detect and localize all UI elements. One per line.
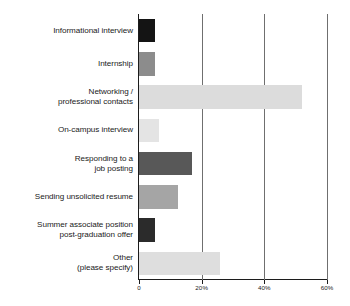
category-label-line: Summer associate position [0, 220, 133, 230]
bar[interactable] [139, 119, 159, 143]
category-label: Networking /professional contacts [0, 81, 133, 114]
category-label-line: post-graduation offer [0, 230, 133, 240]
category-label-line: job posting [0, 164, 133, 174]
bar-row [139, 119, 327, 143]
category-label: Other(please specify) [0, 247, 133, 280]
bar[interactable] [139, 185, 178, 209]
bar-row [139, 85, 327, 109]
category-label-line: On-campus interview [0, 125, 133, 135]
bar[interactable] [139, 218, 155, 242]
bar-row [139, 19, 327, 43]
x-axis-line [138, 279, 328, 280]
bar-row [139, 185, 327, 209]
bar[interactable] [139, 52, 155, 76]
bar[interactable] [139, 19, 155, 43]
category-label-line: Sending unsolicited resume [0, 192, 133, 202]
category-label: Responding to ajob posting [0, 147, 133, 180]
x-axis-tick-label: 0 [137, 284, 141, 291]
category-label-line: Responding to a [0, 154, 133, 164]
bar[interactable] [139, 152, 192, 176]
x-axis-tick-label: 40% [258, 284, 271, 291]
category-label-line: Internship [0, 59, 133, 69]
bar[interactable] [139, 85, 302, 109]
category-label-line: (please specify) [0, 263, 133, 273]
category-label: Summer associate positionpost-graduation… [0, 214, 133, 247]
category-label: Internship [0, 47, 133, 80]
x-axis-tick-label: 20% [195, 284, 208, 291]
chart-figure: Informational interviewInternshipNetwork… [0, 0, 350, 306]
category-label-line: professional contacts [0, 97, 133, 107]
plot-area: 020%40%60% [139, 14, 327, 280]
x-axis-tick-label: 60% [321, 284, 334, 291]
bar-row [139, 252, 327, 276]
category-label-line: Informational interview [0, 26, 133, 36]
bar-row [139, 52, 327, 76]
gridline [327, 14, 328, 280]
category-label: Sending unsolicited resume [0, 180, 133, 213]
category-label-line: Other [0, 253, 133, 263]
bar[interactable] [139, 252, 220, 276]
category-axis-labels: Informational interviewInternshipNetwork… [0, 14, 133, 280]
category-label: On-campus interview [0, 114, 133, 147]
category-label-line: Networking / [0, 87, 133, 97]
bar-row [139, 152, 327, 176]
bar-row [139, 218, 327, 242]
category-label: Informational interview [0, 14, 133, 47]
